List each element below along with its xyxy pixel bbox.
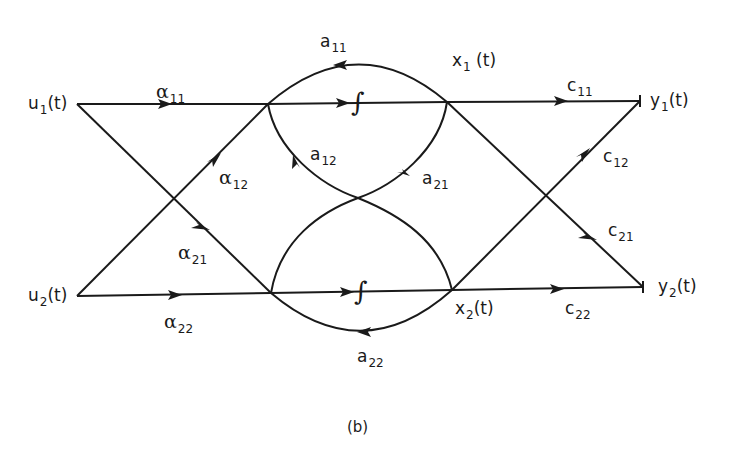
node-y1-label: y1(t) [650,92,689,113]
figure-caption: (b) [347,418,368,436]
integrator-bottom: ∫ [354,278,368,304]
node-x1-label: x1 (t) [452,52,496,73]
gain-c22: c22 [565,300,591,321]
gain-alpha12: α12 [219,168,248,191]
node-y2-label: y2(t) [658,278,697,299]
gain-a12: a12 [310,146,337,167]
gain-alpha21: α21 [178,243,207,266]
node-x2-label: x2(t) [455,300,494,321]
gain-a11: a11 [320,33,347,54]
edge-x2-to-y1 [452,101,640,290]
gain-c12: c12 [603,148,629,169]
node-u2-label: u2(t) [28,287,67,308]
arrow-a22 [357,327,371,337]
edge-x1-to-y2 [447,102,643,287]
edge-a21-curve [271,102,447,293]
arrow-c21 [578,232,597,240]
gain-c21: c21 [608,222,634,243]
edge-x1-to-y1 [447,101,640,102]
node-u1-label: u1(t) [28,95,67,116]
gain-alpha11: α11 [156,82,185,105]
gain-c11: c11 [567,77,593,98]
arrow-alpha12 [207,153,221,167]
gain-a22: a22 [357,348,384,369]
gain-alpha22: α22 [164,312,193,335]
edge-x2-to-y2 [452,287,643,290]
arrow-c12 [576,148,590,162]
gain-a21: a21 [422,170,449,191]
integrator-top: ∫ [351,89,365,115]
